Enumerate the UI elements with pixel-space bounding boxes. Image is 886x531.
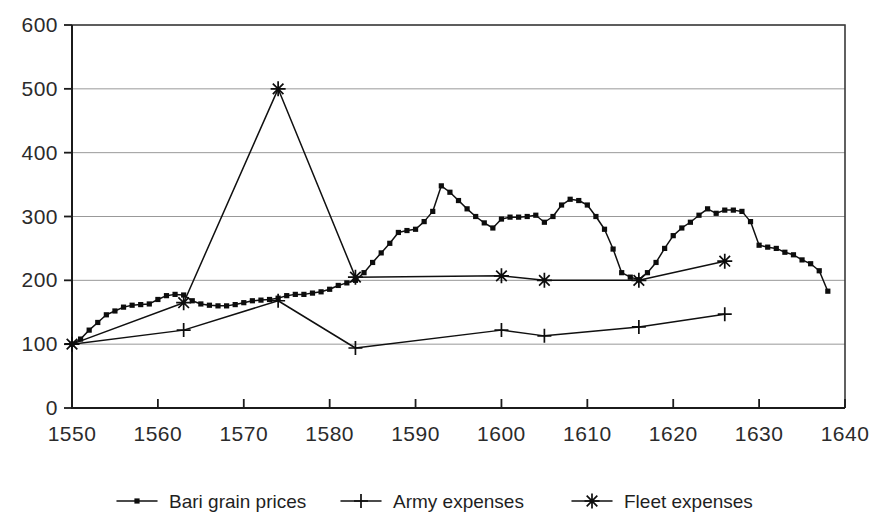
marker-square-0-81 [765,245,770,250]
marker-square-0-22 [258,298,263,303]
marker-square-0-29 [318,289,323,294]
marker-asterisk-2-6 [631,273,646,288]
marker-square-0-51 [507,215,512,220]
marker-square-0-16 [207,303,212,308]
x-tick-label-1640: 1640 [821,422,870,445]
marker-square-0-28 [310,291,315,296]
marker-square-0-40 [413,227,418,232]
marker-square-0-43 [439,183,444,188]
y-tick-label-500: 500 [21,77,58,100]
x-tick-label-1580: 1580 [305,422,354,445]
legend-label-1: Army expenses [393,491,524,512]
marker-square-0-6 [121,305,126,310]
marker-square-0-47 [473,214,478,219]
marker-square-0-84 [791,252,796,257]
marker-square-0-87 [817,268,822,273]
marker-square-0-75 [714,211,719,216]
chart-background [0,0,886,531]
y-tick-label-600: 600 [21,13,58,36]
marker-square-0-31 [336,283,341,288]
y-tick-label-300: 300 [21,205,58,228]
marker-square-legend-0 [134,498,139,503]
marker-square-0-79 [748,219,753,224]
marker-square-0-55 [542,220,547,225]
marker-square-0-41 [422,219,427,224]
marker-square-0-77 [731,208,736,213]
marker-asterisk-2-0 [65,337,80,352]
marker-asterisk-2-4 [494,268,509,283]
x-tick-label-1570: 1570 [219,422,268,445]
marker-square-0-30 [327,287,332,292]
marker-square-0-46 [464,206,469,211]
marker-square-0-71 [679,225,684,230]
marker-square-0-44 [447,190,452,195]
marker-square-0-69 [662,246,667,251]
x-tick-label-1550: 1550 [48,422,97,445]
chart-legend: Bari grain pricesArmy expensesFleet expe… [117,491,753,512]
marker-square-0-80 [757,243,762,248]
marker-square-0-60 [585,202,590,207]
marker-square-0-73 [696,213,701,218]
y-tick-label-400: 400 [21,141,58,164]
chart-svg: 0100200300400500600 15501560157015801590… [0,0,886,531]
legend-label-2: Fleet expenses [624,491,753,512]
x-tick-label-1630: 1630 [735,422,784,445]
marker-square-0-68 [653,260,658,265]
marker-square-0-8 [138,302,143,307]
marker-square-0-17 [215,303,220,308]
marker-square-0-53 [525,214,530,219]
marker-square-0-67 [645,270,650,275]
marker-square-0-85 [799,257,804,262]
marker-square-0-9 [147,301,152,306]
marker-square-0-48 [482,220,487,225]
marker-square-0-12 [172,292,177,297]
marker-square-0-82 [774,246,779,251]
marker-square-0-36 [379,250,384,255]
marker-square-0-4 [104,312,109,317]
x-tick-label-1620: 1620 [649,422,698,445]
marker-square-0-56 [550,214,555,219]
marker-square-0-10 [155,297,160,302]
marker-square-0-35 [370,260,375,265]
marker-square-0-63 [611,246,616,251]
marker-asterisk-2-1 [176,295,191,310]
marker-square-0-18 [224,303,229,308]
marker-square-0-20 [241,300,246,305]
marker-square-0-54 [533,213,538,218]
marker-square-0-50 [499,216,504,221]
marker-square-0-39 [404,228,409,233]
marker-square-0-2 [87,328,92,333]
marker-square-0-61 [593,214,598,219]
legend-label-0: Bari grain prices [169,491,306,512]
marker-square-0-7 [130,303,135,308]
marker-square-0-70 [671,233,676,238]
marker-square-0-86 [808,261,813,266]
marker-square-0-42 [430,209,435,214]
marker-square-0-78 [739,209,744,214]
marker-square-0-45 [456,198,461,203]
x-tick-label-1610: 1610 [563,422,612,445]
marker-asterisk-2-7 [717,254,732,269]
marker-square-0-76 [722,208,727,213]
marker-square-0-38 [396,230,401,235]
marker-square-0-27 [301,292,306,297]
marker-square-0-37 [387,241,392,246]
x-tick-label-1590: 1590 [391,422,440,445]
marker-square-0-88 [825,289,830,294]
marker-square-0-26 [293,292,298,297]
marker-square-0-59 [576,198,581,203]
marker-square-0-74 [705,206,710,211]
marker-square-0-15 [198,301,203,306]
marker-square-0-32 [344,280,349,285]
marker-square-0-25 [284,293,289,298]
marker-asterisk-legend-2 [585,494,600,509]
y-tick-label-100: 100 [21,332,58,355]
marker-square-0-21 [250,298,255,303]
marker-square-0-62 [602,227,607,232]
marker-asterisk-2-2 [271,81,286,96]
marker-square-0-65 [628,275,633,280]
marker-square-0-3 [95,320,100,325]
marker-square-0-83 [782,250,787,255]
marker-square-0-64 [619,270,624,275]
x-tick-label-1600: 1600 [477,422,526,445]
